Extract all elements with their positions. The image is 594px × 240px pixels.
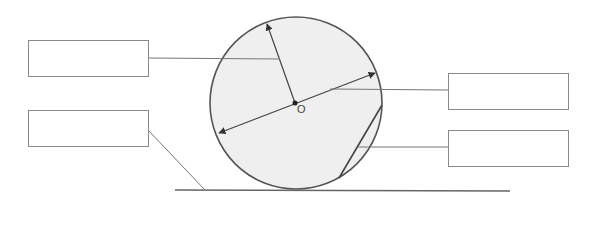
label-box-diameter[interactable] [448,73,569,110]
center-label: O [297,103,306,115]
label-box-chord[interactable] [448,130,569,167]
label-box-radius[interactable] [28,40,149,77]
tangent-line [175,190,510,191]
label-box-tangent[interactable] [28,110,149,147]
leader-tangent [148,130,205,190]
